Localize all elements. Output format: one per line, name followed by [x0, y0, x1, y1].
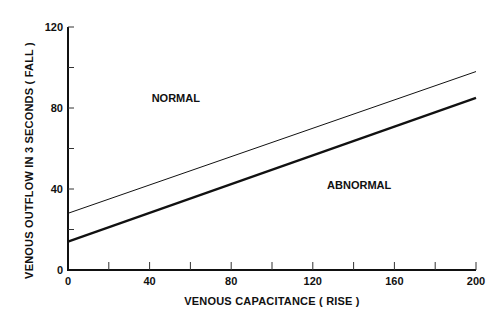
y-tick-label: 120: [45, 21, 63, 33]
x-tick-label: 80: [225, 275, 237, 287]
x-tick-label: 40: [143, 275, 155, 287]
upper-line: [68, 72, 476, 214]
labels: 0408012004080120160200VENOUS CAPACITANCE…: [23, 21, 485, 307]
y-tick-label: 80: [51, 102, 63, 114]
lower-line: [68, 98, 476, 242]
chart: 0408012004080120160200VENOUS CAPACITANCE…: [0, 0, 502, 325]
x-tick-label: 200: [467, 275, 485, 287]
y-tick-label: 40: [51, 183, 63, 195]
x-tick-label: 120: [304, 275, 322, 287]
y-axis-title: VENOUS OUTFLOW IN 3 SECONDS ( FALL ): [23, 42, 35, 279]
region-label-normal: NORMAL: [152, 92, 201, 104]
x-tick-label: 160: [385, 275, 403, 287]
y-tick-label: 0: [57, 264, 63, 276]
x-axis-title: VENOUS CAPACITANCE ( RISE ): [184, 295, 360, 307]
x-tick-label: 0: [65, 275, 71, 287]
region-label-abnormal: ABNORMAL: [327, 179, 391, 191]
axes: [67, 27, 476, 270]
series-lines: [68, 72, 476, 242]
